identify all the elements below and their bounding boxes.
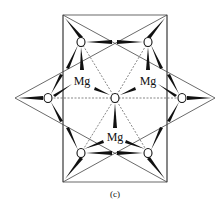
oxygen-atom-top-left xyxy=(77,38,85,47)
oxygen-atom-bottom-left xyxy=(77,149,85,158)
mg-label-top-left: Mg xyxy=(74,74,91,88)
diagram-canvas: Mg Mg Mg (c) xyxy=(0,0,224,208)
oxygen-atom-left xyxy=(44,94,52,103)
oxygen-atom-bottom-right xyxy=(144,149,152,158)
figure-caption: (c) xyxy=(110,189,120,199)
mg-label-top-right: Mg xyxy=(140,74,157,88)
mg-octahedral-structure-diagram: Mg Mg Mg (c) xyxy=(0,0,224,208)
oxygen-atom-top-right xyxy=(144,38,152,47)
oxygen-atom-right xyxy=(178,94,186,103)
mg-label-bottom: Mg xyxy=(107,130,124,144)
oxygen-atom-center xyxy=(111,94,119,103)
